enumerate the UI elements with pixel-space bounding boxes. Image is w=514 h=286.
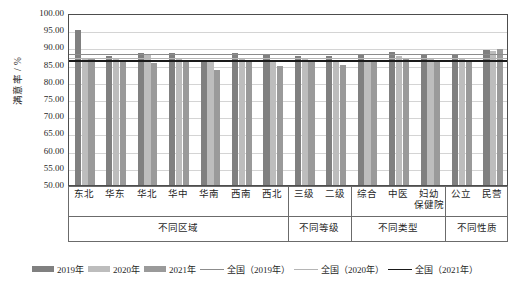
bar <box>239 58 245 186</box>
legend-line-swatch <box>388 269 412 270</box>
national-reference-line <box>69 54 507 55</box>
satisfaction-rate-bar-chart: 满意率 / % 100.0095.0090.0085.0080.0075.007… <box>0 0 514 286</box>
axis-separator <box>68 186 508 187</box>
y-axis-tick-label: 95.00 <box>18 26 64 35</box>
legend-label: 全国（2019年） <box>227 263 290 276</box>
gridline <box>69 118 507 119</box>
category-label: 西北 <box>257 186 288 216</box>
legend-item[interactable]: 2019年 <box>32 263 84 276</box>
legend-item[interactable]: 2020年 <box>88 263 140 276</box>
legend-item[interactable]: 全国（2021年） <box>388 263 478 276</box>
bar <box>151 63 157 186</box>
bar <box>144 55 150 186</box>
axis-separator <box>288 186 289 242</box>
y-axis-tick-label: 60.00 <box>18 147 64 156</box>
gridline <box>69 32 507 33</box>
y-axis-tick-label: 100.00 <box>18 9 64 18</box>
bar <box>466 62 472 186</box>
bar <box>326 56 332 186</box>
bar <box>308 61 314 186</box>
bar <box>106 56 112 186</box>
national-reference-line <box>69 60 507 62</box>
y-axis-tick-label: 90.00 <box>18 43 64 52</box>
gridline <box>69 84 507 85</box>
bar <box>364 60 370 186</box>
bar <box>113 59 119 186</box>
axis-separator <box>68 241 508 242</box>
bar <box>403 58 409 186</box>
bar <box>371 62 377 186</box>
bar <box>490 51 496 186</box>
bar <box>232 53 238 186</box>
category-label: 中医 <box>382 186 413 216</box>
bar <box>246 62 252 186</box>
category-label: 华东 <box>99 186 130 216</box>
category-group-label: 不同类型 <box>351 216 445 242</box>
bar <box>277 66 283 186</box>
legend-bar-swatch <box>88 266 110 272</box>
y-axis-tick-label: 80.00 <box>18 78 64 87</box>
gridline <box>69 67 507 68</box>
bar <box>396 56 402 186</box>
category-label: 东北 <box>68 186 99 216</box>
legend-bar-swatch <box>32 266 54 272</box>
bar <box>88 59 94 186</box>
category-group-label: 不同性质 <box>445 216 508 242</box>
category-label: 华中 <box>162 186 193 216</box>
category-label: 三级 <box>288 186 319 216</box>
legend-label: 2020年 <box>113 263 140 276</box>
gridline <box>69 101 507 102</box>
bar <box>340 65 346 186</box>
bar <box>302 59 308 186</box>
category-label: 华南 <box>194 186 225 216</box>
y-axis-tick-label: 70.00 <box>18 112 64 121</box>
bar <box>497 49 503 186</box>
category-label: 华北 <box>131 186 162 216</box>
gridline <box>69 49 507 50</box>
bar <box>427 59 433 186</box>
y-axis-tick-label: 85.00 <box>18 61 64 70</box>
bar <box>138 53 144 186</box>
bar <box>421 55 427 186</box>
y-axis-tick-label: 75.00 <box>18 95 64 104</box>
bar <box>82 59 88 186</box>
bar <box>434 62 440 186</box>
bar <box>120 62 126 186</box>
legend-bar-swatch <box>144 266 166 272</box>
legend-item[interactable]: 2021年 <box>144 263 196 276</box>
axis-separator <box>445 186 446 242</box>
bar <box>263 55 269 186</box>
y-axis-tick-labels: 100.0095.0090.0085.0080.0075.0070.0065.0… <box>14 0 64 286</box>
bar <box>169 53 175 186</box>
bar <box>295 56 301 186</box>
category-axis: 东北华东华北华中华南西南西北三级二级综合中医妇幼保健院公立民营不同区域不同等级不… <box>68 186 508 242</box>
chart-legend: 2019年2020年2021年全国（2019年）全国（2020年）全国（2021… <box>0 258 514 280</box>
gridline <box>69 170 507 171</box>
axis-separator <box>68 186 69 242</box>
legend-item[interactable]: 全国（2020年） <box>294 263 384 276</box>
bar <box>176 59 182 186</box>
category-label: 公立 <box>445 186 476 216</box>
legend-line-swatch <box>200 269 224 270</box>
plot-area <box>68 14 508 186</box>
axis-separator <box>507 186 508 242</box>
category-label: 民营 <box>477 186 508 216</box>
legend-label: 2019年 <box>57 263 84 276</box>
legend-label: 2021年 <box>169 263 196 276</box>
category-label: 妇幼保健院 <box>414 186 445 216</box>
category-group-label: 不同区域 <box>68 216 288 242</box>
category-group-label: 不同等级 <box>288 216 351 242</box>
bar <box>358 55 364 186</box>
y-axis-tick-label: 65.00 <box>18 129 64 138</box>
bar <box>214 70 220 186</box>
category-label: 综合 <box>351 186 382 216</box>
gridline <box>69 135 507 136</box>
y-axis-tick-label: 55.00 <box>18 164 64 173</box>
bar <box>207 61 213 186</box>
legend-item[interactable]: 全国（2019年） <box>200 263 290 276</box>
bar <box>459 59 465 186</box>
bar <box>270 60 276 186</box>
legend-line-swatch <box>294 269 318 270</box>
bar <box>483 50 489 186</box>
bar <box>452 55 458 186</box>
